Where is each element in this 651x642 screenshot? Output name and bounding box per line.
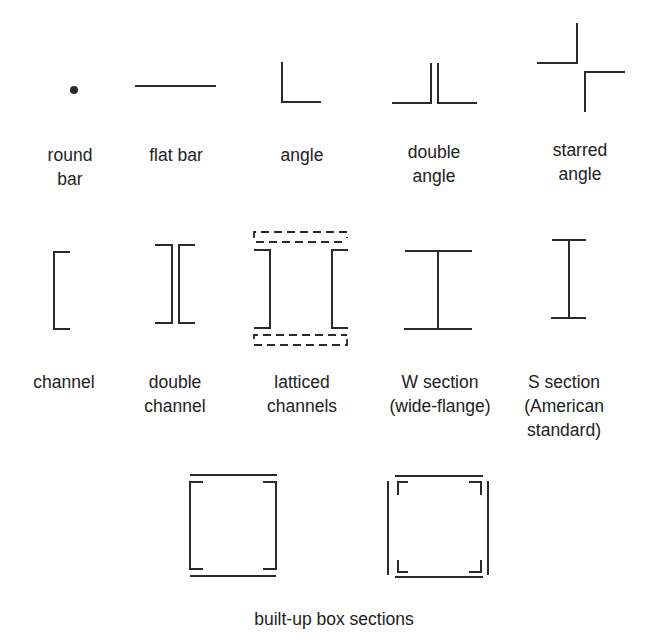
label-angle: angle	[281, 143, 324, 167]
label-line: channel	[33, 370, 94, 394]
label-line: bar	[48, 167, 93, 191]
label-round-bar: round bar	[48, 143, 93, 191]
label-line: standard)	[524, 418, 604, 442]
label-starred-angle: starred angle	[553, 138, 607, 186]
s-section-shape	[551, 240, 586, 318]
channel-shape	[54, 252, 70, 329]
label-w-section: W section (wide-flange)	[389, 370, 490, 418]
label-line: angle	[553, 162, 607, 186]
label-line: (wide-flange)	[389, 394, 490, 418]
label-line: S section	[524, 370, 604, 394]
latticed-channels-shape	[254, 232, 348, 345]
steel-sections-diagram	[0, 0, 651, 642]
label-built-up-box-sections: built-up box sections	[254, 607, 414, 631]
w-section-shape	[404, 251, 472, 329]
label-line: (American	[524, 394, 604, 418]
label-double-channel: double channel	[144, 370, 205, 418]
label-channel: channel	[33, 370, 94, 394]
angle-shape	[282, 62, 321, 102]
round-bar-shape	[70, 86, 78, 94]
box-section-1-shape	[190, 475, 277, 576]
label-line: angle	[281, 143, 324, 167]
box-section-2-shape	[388, 476, 488, 577]
caption: built-up box sections	[254, 607, 414, 631]
label-line: channel	[144, 394, 205, 418]
label-line: flat bar	[149, 143, 203, 167]
label-flat-bar: flat bar	[149, 143, 203, 167]
label-line: starred	[553, 138, 607, 162]
starred-angle-shape	[537, 23, 625, 112]
label-line: W section	[389, 370, 490, 394]
label-line: channels	[267, 394, 337, 418]
double-angle-shape	[392, 63, 477, 103]
label-line: angle	[408, 164, 461, 188]
label-latticed-channels: latticed channels	[267, 370, 337, 418]
label-double-angle: double angle	[408, 140, 461, 188]
label-line: latticed	[267, 370, 337, 394]
label-line: double	[144, 370, 205, 394]
label-line: round	[48, 143, 93, 167]
label-line: double	[408, 140, 461, 164]
label-s-section: S section (American standard)	[524, 370, 604, 442]
double-channel-shape	[155, 245, 195, 323]
